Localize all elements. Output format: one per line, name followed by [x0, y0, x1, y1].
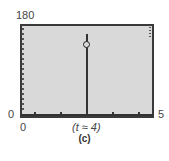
x-max-label: 5 — [158, 108, 164, 120]
trace-marker-circle — [83, 41, 90, 48]
y-min-label: 0 — [8, 108, 14, 120]
figure-caption: (c) — [0, 133, 169, 144]
x-tick — [60, 112, 62, 115]
x-min-label: 0 — [20, 121, 26, 133]
x-tick — [112, 112, 114, 115]
x-tick — [138, 112, 140, 115]
y-max-label: 180 — [16, 9, 34, 21]
x-tick — [34, 112, 36, 115]
y-axis-ticks — [22, 28, 24, 112]
annotation-t: (t ≈ 4) — [72, 121, 101, 133]
right-edge-dots — [149, 27, 151, 37]
